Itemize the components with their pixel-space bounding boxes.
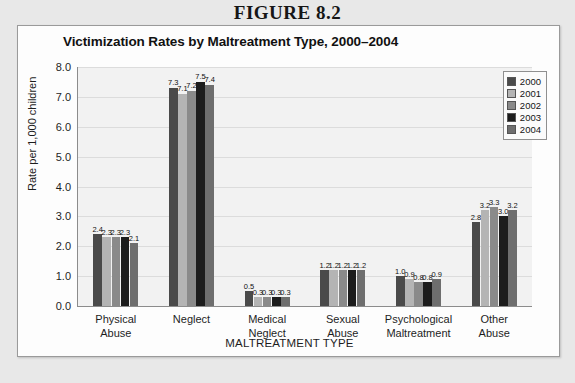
bar — [348, 270, 357, 306]
bar — [396, 276, 405, 306]
x-axis-title: MALTREATMENT TYPE — [18, 337, 561, 349]
bar-column: 3.3 — [490, 67, 499, 306]
legend-label: 2000 — [520, 77, 541, 87]
legend-label: 2001 — [520, 89, 541, 99]
bar — [102, 237, 111, 306]
bar-column: 2.3 — [121, 67, 130, 306]
bar — [432, 279, 441, 306]
bar-column: 7.5 — [196, 67, 205, 306]
bar — [490, 207, 499, 306]
bar-column: 0.5 — [245, 67, 254, 306]
bar-column: 1.2 — [339, 67, 348, 306]
bar-value-label: 3.3 — [489, 199, 499, 207]
bar — [281, 297, 290, 306]
bar — [254, 297, 263, 306]
bar-column: 2.1 — [130, 67, 139, 306]
bar — [121, 237, 130, 306]
bar — [93, 234, 102, 306]
bar-column: 0.3 — [254, 67, 263, 306]
chart-legend: 20002001200220032004 — [503, 71, 547, 140]
y-axis-tick-label: 5.0 — [56, 151, 71, 163]
bar-value-label: 0.3 — [280, 289, 290, 297]
bar-column: 2.3 — [112, 67, 121, 306]
bar — [263, 297, 272, 306]
legend-item[interactable]: 2002 — [507, 100, 541, 111]
bar — [472, 222, 481, 306]
bar-column: 0.9 — [432, 67, 441, 306]
legend-item[interactable]: 2001 — [507, 88, 541, 99]
bar — [414, 282, 423, 306]
chart-title: Victimization Rates by Maltreatment Type… — [63, 34, 398, 49]
bar-value-label: 7.2 — [186, 82, 196, 90]
bar — [196, 82, 205, 306]
legend-swatch-icon — [507, 77, 516, 86]
y-axis-title: Rate per 1,000 children — [26, 77, 38, 191]
bar — [423, 282, 432, 306]
bar — [481, 210, 490, 306]
x-axis-category-line: Sexual — [326, 313, 360, 327]
y-axis-tick-label: 4.0 — [56, 181, 71, 193]
bar-column: 0.3 — [272, 67, 281, 306]
figure-card: Victimization Rates by Maltreatment Type… — [17, 25, 560, 357]
legend-swatch-icon — [507, 113, 516, 122]
x-axis-category-label: Neglect — [173, 313, 210, 327]
bar — [320, 270, 329, 306]
bar-column: 7.3 — [169, 67, 178, 306]
bar-column: 2.4 — [93, 67, 102, 306]
x-axis-category-line: Psychological — [385, 313, 452, 327]
bar-column: 7.2 — [187, 67, 196, 306]
bar — [112, 237, 121, 306]
bar-group: 7.37.17.27.57.4Neglect — [154, 67, 230, 306]
y-axis-tick-label: 2.0 — [56, 240, 71, 252]
bar-column: 1.2 — [329, 67, 338, 306]
legend-item[interactable]: 2004 — [507, 124, 541, 135]
bar — [499, 216, 508, 306]
y-axis-tick-label: 8.0 — [56, 61, 71, 73]
legend-item[interactable]: 2000 — [507, 76, 541, 87]
bar-column: 7.4 — [205, 67, 214, 306]
bar-column: 1.2 — [348, 67, 357, 306]
y-axis-tick-label: 0.0 — [56, 300, 71, 312]
legend-item[interactable]: 2003 — [507, 112, 541, 123]
bar-column: 2.3 — [102, 67, 111, 306]
x-axis-category-line: Neglect — [173, 313, 210, 327]
x-axis-category-line: Medical — [248, 313, 286, 327]
bar — [339, 270, 348, 306]
y-axis-tick-label: 3.0 — [56, 210, 71, 222]
figure-number-label: FIGURE 8.2 — [0, 2, 575, 24]
bar — [205, 85, 214, 306]
bar-value-label: 1.2 — [356, 262, 366, 270]
legend-swatch-icon — [507, 101, 516, 110]
bar — [187, 91, 196, 306]
bar-column: 1.2 — [320, 67, 329, 306]
bar-column: 0.3 — [281, 67, 290, 306]
bar — [508, 210, 517, 306]
bar — [405, 279, 414, 306]
bar-group: 1.00.90.80.80.9PsychologicalMaltreatment — [381, 67, 457, 306]
bar-column: 0.9 — [405, 67, 414, 306]
legend-label: 2003 — [520, 113, 541, 123]
bar-column: 3.2 — [481, 67, 490, 306]
x-axis-category-line: Physical — [95, 313, 136, 327]
bar-column: 0.3 — [263, 67, 272, 306]
legend-swatch-icon — [507, 125, 516, 134]
legend-label: 2002 — [520, 101, 541, 111]
bar — [130, 243, 139, 306]
y-axis-tick-label: 1.0 — [56, 270, 71, 282]
x-axis-category-line: Other — [479, 313, 510, 327]
plot-area: 0.01.02.03.04.05.06.07.08.0 2.42.32.32.3… — [77, 67, 532, 307]
legend-label: 2004 — [520, 125, 541, 135]
y-axis-tick-label: 7.0 — [56, 91, 71, 103]
bar — [169, 88, 178, 306]
bar-value-label: 2.8 — [471, 214, 481, 222]
bar-value-label: 7.4 — [204, 76, 214, 84]
bar-value-label: 0.9 — [431, 271, 441, 279]
bar-column: 1.2 — [357, 67, 366, 306]
bar-value-label: 2.1 — [129, 235, 139, 243]
bar-group: 1.21.21.21.21.2SexualAbuse — [305, 67, 381, 306]
bar-column: 7.1 — [178, 67, 187, 306]
bar — [178, 94, 187, 306]
bar — [357, 270, 366, 306]
legend-swatch-icon — [507, 89, 516, 98]
bar-column: 0.8 — [414, 67, 423, 306]
